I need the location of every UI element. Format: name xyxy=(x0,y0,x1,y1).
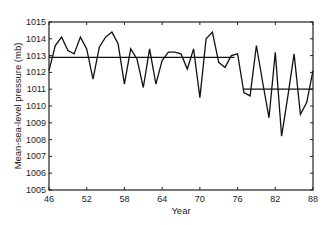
x-tick-label: 46 xyxy=(44,194,54,204)
x-tick-label: 82 xyxy=(270,194,280,204)
y-tick-label: 1010 xyxy=(26,101,46,111)
x-tick-labels: 4652586470768288 xyxy=(44,194,318,204)
axis-ticks xyxy=(49,22,313,190)
x-tick-label: 88 xyxy=(308,194,318,204)
x-axis-label: Year xyxy=(171,205,190,216)
series-line xyxy=(49,32,313,136)
line-chart: 1005100610071008100910101011101210131014… xyxy=(0,0,335,225)
y-tick-label: 1011 xyxy=(27,84,46,94)
y-tick-label: 1008 xyxy=(26,135,46,145)
y-tick-label: 1015 xyxy=(26,17,46,27)
x-tick-label: 58 xyxy=(119,194,129,204)
y-tick-label: 1005 xyxy=(26,185,46,195)
x-tick-label: 52 xyxy=(82,194,92,204)
plot-frame xyxy=(49,22,313,190)
y-tick-label: 1012 xyxy=(26,67,46,77)
y-axis-label: Mean-sea-level pressure (mb) xyxy=(12,43,23,170)
y-tick-label: 1009 xyxy=(26,118,46,128)
x-tick-label: 70 xyxy=(195,194,205,204)
y-tick-labels: 1005100610071008100910101011101210131014… xyxy=(26,17,46,195)
x-tick-label: 64 xyxy=(157,194,167,204)
y-tick-label: 1014 xyxy=(26,34,46,44)
x-tick-label: 76 xyxy=(233,194,243,204)
y-tick-label: 1013 xyxy=(26,51,46,61)
pressure-series xyxy=(49,32,313,136)
plot-border xyxy=(49,22,313,190)
y-tick-label: 1006 xyxy=(26,168,46,178)
y-tick-label: 1007 xyxy=(26,151,46,161)
